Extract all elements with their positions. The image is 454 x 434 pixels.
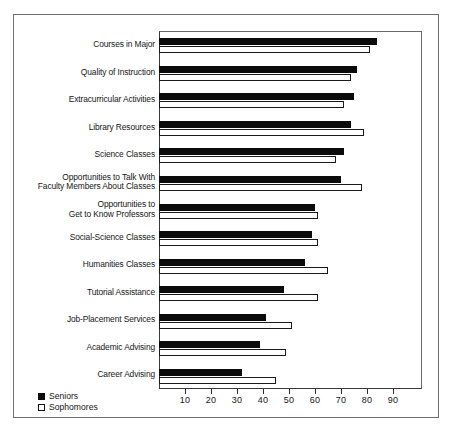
bar-seniors xyxy=(159,231,312,238)
x-axis-tick xyxy=(341,389,342,394)
legend-label-sophomores: Sophomores xyxy=(49,402,98,413)
x-axis-tick xyxy=(367,389,368,394)
bar-sophomores xyxy=(159,322,292,329)
x-axis-tick xyxy=(315,389,316,394)
chart-figure: Courses in MajorQuality of InstructionEx… xyxy=(0,0,454,434)
category-label: Social-Science Classes xyxy=(70,233,155,243)
x-axis-tick-label: 40 xyxy=(258,395,268,405)
x-axis-tick-label: 10 xyxy=(180,395,190,405)
x-axis-tick-label: 70 xyxy=(336,395,346,405)
bar-seniors xyxy=(159,259,305,266)
x-axis-tick-label: 30 xyxy=(232,395,242,405)
bar-sophomores xyxy=(159,239,318,246)
bar-sophomores xyxy=(159,377,276,384)
bar-sophomores xyxy=(159,212,318,219)
category-label: Academic Advising xyxy=(86,343,155,353)
bar-seniors xyxy=(159,369,242,376)
category-label: Humanities Classes xyxy=(83,260,155,270)
legend-item-seniors: Seniors xyxy=(38,391,148,402)
category-label: Opportunities to Talk With Faculty Membe… xyxy=(38,173,155,192)
x-axis-tick xyxy=(211,389,212,394)
category-label: Tutorial Assistance xyxy=(87,288,155,298)
category-label: Opportunities to Get to Know Professors xyxy=(69,200,155,219)
x-axis-tick-label: 20 xyxy=(206,395,216,405)
bar-seniors xyxy=(159,66,357,73)
x-axis-tick-label: 50 xyxy=(284,395,294,405)
bar-sophomores xyxy=(159,74,351,81)
x-axis-tick xyxy=(185,389,186,394)
legend: Seniors Sophomores xyxy=(38,391,148,413)
bar-seniors xyxy=(159,341,260,348)
category-label: Extracurricular Activities xyxy=(69,95,155,105)
category-label: Library Resources xyxy=(89,123,155,133)
x-axis: 102030405060708090 xyxy=(159,389,422,411)
bar-seniors xyxy=(159,314,266,321)
bar-sophomores xyxy=(159,46,370,53)
bar-seniors xyxy=(159,204,315,211)
bars-layer xyxy=(159,31,422,389)
x-axis-tick xyxy=(263,389,264,394)
bar-sophomores xyxy=(159,129,364,136)
legend-item-sophomores: Sophomores xyxy=(38,402,148,413)
bar-sophomores xyxy=(159,267,328,274)
bar-seniors xyxy=(159,93,354,100)
x-axis-tick xyxy=(237,389,238,394)
x-axis-tick-label: 90 xyxy=(388,395,398,405)
bar-sophomores xyxy=(159,349,286,356)
category-label: Quality of Instruction xyxy=(81,68,155,78)
bar-seniors xyxy=(159,148,344,155)
x-axis-tick xyxy=(289,389,290,394)
x-axis-tick-label: 80 xyxy=(362,395,372,405)
bar-seniors xyxy=(159,286,284,293)
legend-swatch-open-square-icon xyxy=(38,404,45,411)
bar-sophomores xyxy=(159,101,344,108)
bar-sophomores xyxy=(159,294,318,301)
category-label: Career Advising xyxy=(97,370,155,380)
bar-sophomores xyxy=(159,184,362,191)
x-axis-tick-label: 60 xyxy=(310,395,320,405)
x-axis-tick xyxy=(393,389,394,394)
bar-seniors xyxy=(159,176,341,183)
bar-seniors xyxy=(159,121,351,128)
bar-sophomores xyxy=(159,156,336,163)
legend-swatch-filled-square-icon xyxy=(38,393,45,400)
category-label: Science Classes xyxy=(95,150,155,160)
category-axis-labels: Courses in MajorQuality of InstructionEx… xyxy=(14,31,157,389)
category-label: Courses in Major xyxy=(93,40,155,50)
legend-label-seniors: Seniors xyxy=(49,391,78,402)
category-label: Job-Placement Services xyxy=(67,315,155,325)
bar-seniors xyxy=(159,38,377,45)
